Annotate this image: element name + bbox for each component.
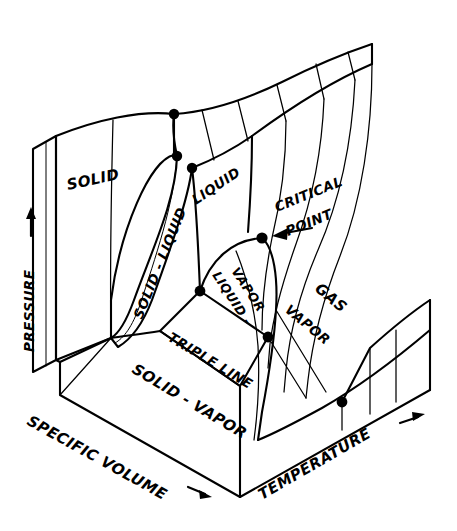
top-ruling-2 xyxy=(238,101,248,141)
phase-diagram-figure: SOLID SOLID - LIQUID LIQUID LIQUID - VAP… xyxy=(0,0,457,531)
region-label-liquid: LIQUID xyxy=(189,164,243,208)
marker-dot-critical-point xyxy=(256,232,267,243)
top-ruling-4 xyxy=(316,64,324,99)
marker-dot-solid-liquid-mid xyxy=(172,151,182,161)
pvt-surface-svg: SOLID SOLID - LIQUID LIQUID LIQUID - VAP… xyxy=(0,0,457,531)
marker-dot-base-right xyxy=(337,397,348,408)
volume-axis-arrowhead xyxy=(199,490,212,499)
solid-vapor-ruling xyxy=(60,338,111,395)
axis-label-pressure: PRESSURE xyxy=(21,269,37,352)
liquid-right-boundary xyxy=(248,136,252,232)
marker-dot-triple-line-right xyxy=(263,332,274,343)
axis-label-temperature: TEMPERATURE xyxy=(255,424,374,503)
temperature-axis-arrowhead xyxy=(412,412,425,421)
axis-label-specific-volume: SPECIFIC VOLUME xyxy=(24,412,170,504)
solid-face-outline xyxy=(56,113,174,360)
region-label-solid-liquid: SOLID - LIQUID xyxy=(130,205,189,321)
marker-dot-liquid-top xyxy=(187,163,197,173)
region-label-solid: SOLID xyxy=(65,165,121,194)
vapor-ruling-1 xyxy=(268,337,306,398)
solid-vapor-left-edge xyxy=(56,360,60,362)
annotation-label-critical-point-line2: POINT xyxy=(283,205,336,239)
top-band-front-edge xyxy=(192,64,372,168)
solid-liquid-band-right xyxy=(111,168,192,347)
top-ruling-1 xyxy=(202,110,214,160)
annotation-label-triple-line: TRIPLE LINE xyxy=(165,329,256,392)
marker-dot-triple-line-left xyxy=(195,286,206,297)
triple-band-left-side xyxy=(160,291,200,331)
marker-dot-solid-liquid-top xyxy=(169,109,179,119)
gas-isotherm-4 xyxy=(306,64,372,398)
vapor-gas-surface-lower xyxy=(258,330,430,440)
gas-isotherm-1 xyxy=(262,121,286,330)
region-label-gas: GAS xyxy=(311,279,350,316)
